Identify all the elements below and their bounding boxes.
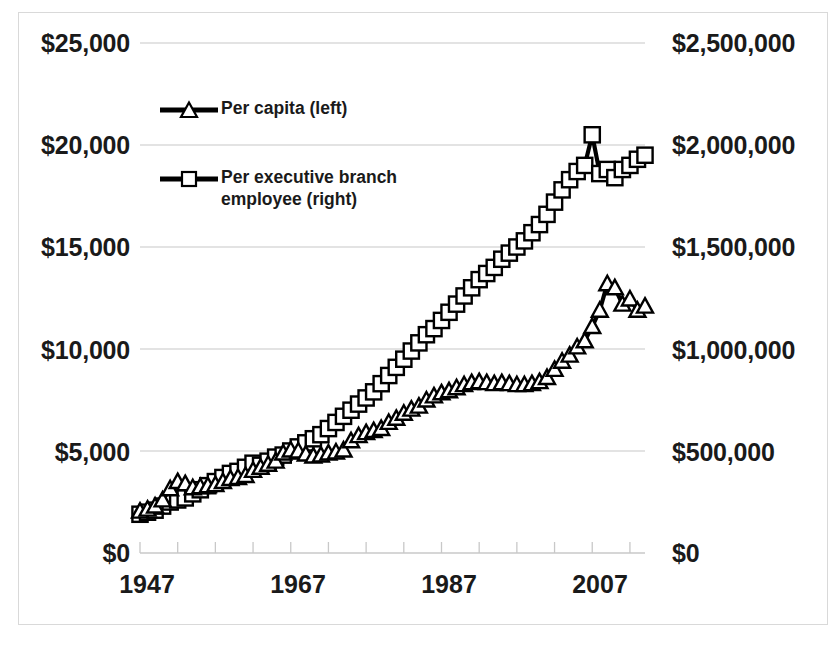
y-axis-right-label-2: $1,500,000 (672, 233, 840, 262)
legend-label-per-executive-branch-employee: Per executive branch employee (right) (221, 167, 397, 211)
y-axis-left-label-5: $0 (0, 539, 130, 568)
y-axis-right-label-1: $2,000,000 (672, 131, 840, 160)
x-axis-label-2007: 2007 (545, 570, 655, 599)
legend-marker-square-icon (160, 169, 218, 189)
legend-label-per-capita: Per capita (left) (221, 98, 347, 120)
y-axis-left-label-1: $20,000 (0, 131, 130, 160)
x-axis-label-1987: 1987 (394, 570, 504, 599)
y-axis-right-label-5: $0 (672, 539, 840, 568)
y-axis-left-label-4: $5,000 (0, 438, 130, 467)
y-axis-right-label-4: $500,000 (672, 438, 840, 467)
y-axis-right-label-3: $1,000,000 (672, 336, 840, 365)
legend-item-per-executive-branch-employee: Per executive branch employee (right) (160, 167, 397, 211)
series-per-capita (132, 276, 653, 518)
legend-item-per-capita: Per capita (left) (160, 98, 347, 120)
legend-marker-triangle-icon (160, 100, 218, 120)
x-axis-label-1947: 1947 (92, 570, 202, 599)
y-axis-left-label-3: $10,000 (0, 336, 130, 365)
x-axis-label-1967: 1967 (243, 570, 353, 599)
y-axis-right-label-0: $2,500,000 (672, 29, 840, 58)
x-axis-ticks (140, 542, 630, 553)
chart-container: $25,000 $20,000 $15,000 $10,000 $5,000 $… (0, 0, 840, 648)
y-axis-left-label-2: $15,000 (0, 233, 130, 262)
y-axis-left-label-0: $25,000 (0, 29, 130, 58)
